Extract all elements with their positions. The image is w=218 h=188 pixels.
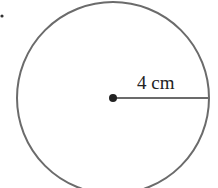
radius-label: 4 cm bbox=[137, 72, 175, 93]
center-point bbox=[109, 94, 117, 102]
bullet-dot bbox=[0, 14, 3, 17]
circle-diagram: 4 cm bbox=[0, 0, 218, 188]
